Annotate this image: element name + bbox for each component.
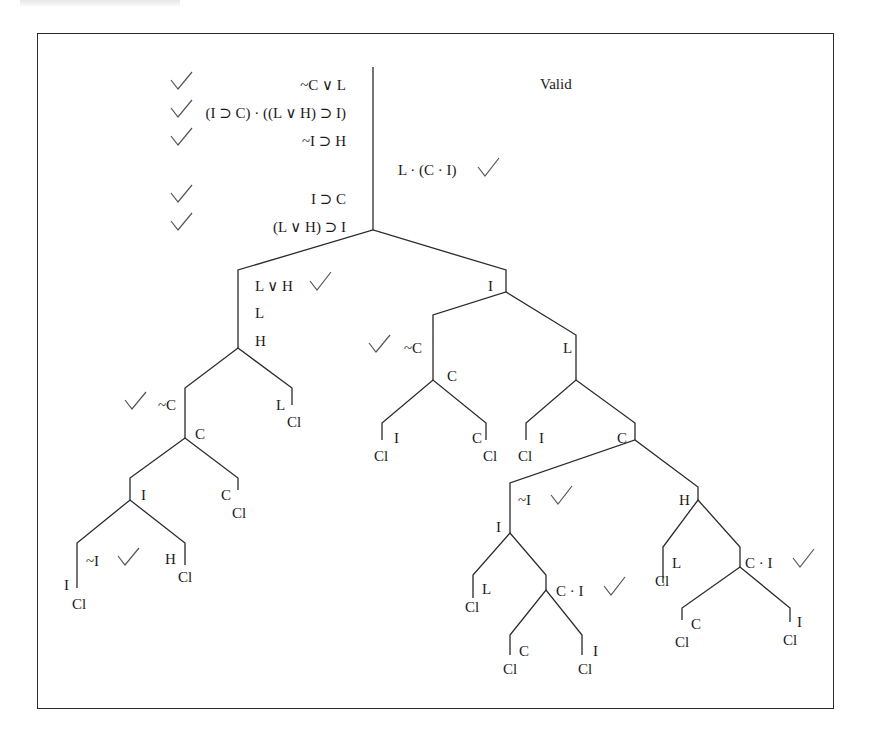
check-icon	[171, 72, 192, 89]
check-icon	[793, 549, 814, 567]
check-icon	[171, 100, 192, 117]
check-marks	[0, 0, 875, 740]
check-icon	[478, 158, 499, 176]
check-icon	[604, 577, 625, 595]
check-icon	[171, 128, 192, 145]
check-icon	[369, 335, 390, 352]
check-icon	[171, 185, 192, 202]
check-icon	[171, 213, 192, 230]
check-icon	[551, 486, 572, 504]
check-icon	[125, 392, 146, 409]
check-icon	[118, 548, 139, 565]
check-icon	[310, 272, 331, 290]
